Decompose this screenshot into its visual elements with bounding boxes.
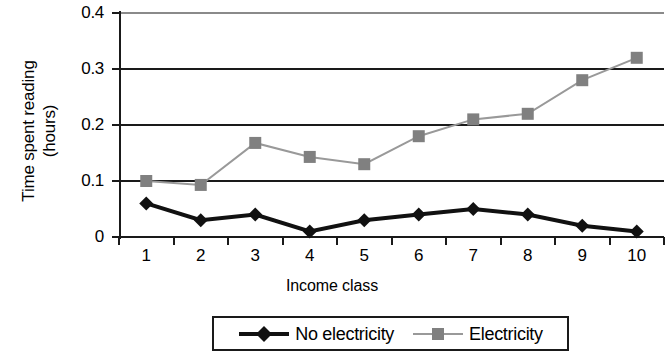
data-series-layer xyxy=(119,13,664,237)
y-axis-tick-label: 0.3 xyxy=(52,60,104,77)
square-marker-icon xyxy=(413,130,425,142)
x-axis-tick-label: 3 xyxy=(235,247,275,264)
x-axis-tick-label: 1 xyxy=(126,247,166,264)
square-marker-icon xyxy=(358,158,370,170)
x-axis-tick xyxy=(227,237,229,245)
series-line xyxy=(146,58,637,185)
legend-label-no-electricity: No electricity xyxy=(295,325,394,343)
diamond-marker-icon xyxy=(238,325,290,343)
x-axis-tick-label: 4 xyxy=(290,247,330,264)
x-axis-tick-label: 9 xyxy=(562,247,602,264)
x-axis-tick-label: 6 xyxy=(399,247,439,264)
diamond-marker-icon xyxy=(357,213,371,227)
square-marker-icon xyxy=(467,113,479,125)
square-marker-icon xyxy=(195,179,207,191)
chart-legend: No electricity Electricity xyxy=(212,316,569,351)
diamond-marker-icon xyxy=(466,202,480,216)
x-axis-tick xyxy=(554,237,556,245)
x-axis-tick-label: 5 xyxy=(344,247,384,264)
x-axis-tick xyxy=(336,237,338,245)
x-axis-tick-label: 7 xyxy=(453,247,493,264)
y-axis-tick-label: 0.4 xyxy=(52,4,104,21)
square-marker-icon xyxy=(140,175,152,187)
x-axis-title: Income class xyxy=(0,277,664,295)
legend-item-electricity: Electricity xyxy=(412,325,543,343)
diamond-marker-icon xyxy=(248,208,262,222)
square-marker-icon xyxy=(576,74,588,86)
square-marker-icon xyxy=(412,325,464,343)
x-axis-tick-label: 10 xyxy=(617,247,657,264)
square-marker-icon xyxy=(249,137,261,149)
x-axis-tick xyxy=(118,237,120,245)
x-axis-tick xyxy=(500,237,502,245)
plot-area xyxy=(119,13,664,237)
diamond-marker-icon xyxy=(139,196,153,210)
x-axis-tick xyxy=(173,237,175,245)
legend-item-no-electricity: No electricity xyxy=(238,325,394,343)
square-marker-icon xyxy=(522,108,534,120)
square-marker-icon xyxy=(304,151,316,163)
x-axis-tick xyxy=(609,237,611,245)
x-axis-tick-label: 2 xyxy=(181,247,221,264)
y-axis-tick-label: 0.1 xyxy=(52,172,104,189)
x-axis-tick xyxy=(282,237,284,245)
x-axis-tick-label: 8 xyxy=(508,247,548,264)
y-axis-tick-label: 0.2 xyxy=(52,116,104,133)
diamond-marker-icon xyxy=(412,208,426,222)
diamond-marker-icon xyxy=(303,224,317,238)
legend-label-electricity: Electricity xyxy=(469,325,543,343)
y-axis-tick-label: 0 xyxy=(52,228,104,245)
diamond-marker-icon xyxy=(521,208,535,222)
x-axis-tick xyxy=(445,237,447,245)
diamond-marker-icon xyxy=(194,213,208,227)
y-axis-title-line-1: Time spent reading xyxy=(18,6,39,256)
series-line xyxy=(146,203,637,231)
x-axis-tick xyxy=(391,237,393,245)
diamond-marker-icon xyxy=(575,219,589,233)
square-marker-icon xyxy=(631,52,643,64)
diamond-marker-icon xyxy=(630,224,644,238)
